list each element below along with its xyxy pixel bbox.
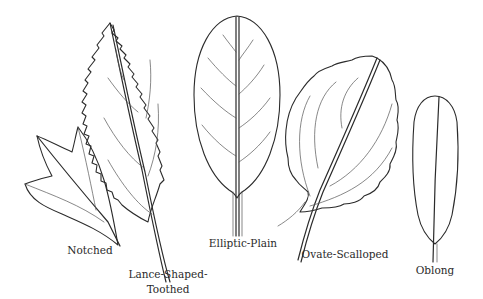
label-ovate-scalloped: Ovate-Scalloped: [295, 247, 395, 262]
leaf-shapes-diagram: Notched Lance-Shaped- Toothed Elliptic-P…: [0, 0, 483, 299]
label-lance-line2: Toothed: [128, 282, 208, 297]
label-oblong: Oblong: [410, 263, 460, 278]
notched-leaf-drawing: [25, 127, 120, 246]
oblong-leaf-drawing: [413, 96, 458, 262]
label-lance-line1: Lance-Shaped-: [128, 267, 208, 282]
label-elliptic-plain: Elliptic-Plain: [203, 236, 283, 251]
label-notched: Notched: [60, 243, 120, 258]
ovate-scalloped-leaf-drawing: [278, 56, 398, 262]
elliptic-plain-leaf-drawing: [194, 16, 280, 236]
label-lance-shaped-toothed: Lance-Shaped- Toothed: [128, 267, 208, 297]
